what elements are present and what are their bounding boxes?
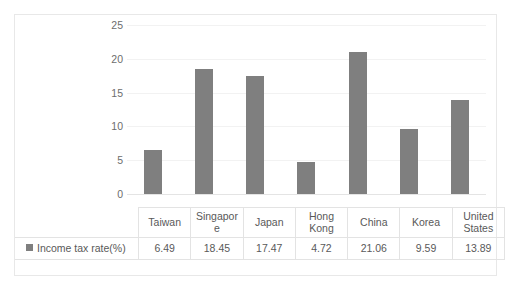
bar-slot	[435, 15, 486, 194]
category-label-line: Kong	[296, 223, 347, 235]
table-value-cell: 17.47	[243, 238, 295, 260]
category-label-line: Hong	[296, 211, 347, 223]
chart-data-table: TaiwanSingaporeJapanHongKongChinaKoreaUn…	[15, 207, 505, 260]
plot-area: 25 20 15 10 5 0	[15, 15, 498, 211]
bar-slot	[178, 15, 229, 194]
table-value-cell: 18.45	[191, 238, 243, 260]
table-row-values: Income tax rate(%) 6.4918.4517.474.7221.…	[15, 238, 504, 260]
legend-entry: Income tax rate(%)	[15, 238, 139, 260]
table-value-cell: 4.72	[295, 238, 347, 260]
table-value-cell: 21.06	[348, 238, 400, 260]
category-label-line: United	[453, 211, 504, 223]
category-label-line: e	[191, 223, 242, 235]
y-axis-tick-label: 20	[97, 54, 123, 64]
bar[interactable]	[195, 69, 213, 194]
y-axis-tick-label: 5	[97, 155, 123, 165]
table-header-cell-category: China	[348, 208, 400, 238]
y-axis-tick-label: 10	[97, 121, 123, 131]
table-value-cell: 13.89	[452, 238, 504, 260]
bar-slot	[332, 15, 383, 194]
category-label-line: Japan	[244, 217, 295, 229]
grid-and-bars	[127, 15, 486, 211]
table-header-cell-category: Korea	[400, 208, 452, 238]
table-corner-cell	[15, 208, 139, 238]
bar-series	[127, 15, 486, 194]
table-value-cell: 6.49	[139, 238, 191, 260]
legend-swatch-icon	[26, 244, 33, 251]
table-header-cell-category: UnitedStates	[452, 208, 504, 238]
category-label-line: States	[453, 223, 504, 235]
bar[interactable]	[246, 76, 264, 194]
legend-label: Income tax rate(%)	[37, 242, 126, 254]
bar[interactable]	[451, 100, 469, 194]
table-row-categories: TaiwanSingaporeJapanHongKongChinaKoreaUn…	[15, 208, 504, 238]
bar-slot	[281, 15, 332, 194]
axis-baseline	[127, 194, 486, 195]
bar[interactable]	[144, 150, 162, 194]
category-label-line: Taiwan	[139, 217, 190, 229]
table-header-cell-category: Singapore	[191, 208, 243, 238]
category-label-line: Singapor	[191, 211, 242, 223]
table-value-cell: 9.59	[400, 238, 452, 260]
y-axis-tick-label: 15	[97, 88, 123, 98]
category-label-line: Korea	[400, 217, 451, 229]
y-axis-tick-label: 25	[97, 20, 123, 30]
y-axis-tick-labels: 25 20 15 10 5 0	[97, 15, 123, 211]
y-axis-tick-label: 0	[97, 189, 123, 199]
bar-slot	[383, 15, 434, 194]
bar[interactable]	[297, 162, 315, 194]
bar-slot	[230, 15, 281, 194]
table-header-cell-category: Taiwan	[139, 208, 191, 238]
category-label-line: China	[348, 217, 399, 229]
chart-container: 25 20 15 10 5 0 TaiwanSingaporeJapanHong…	[14, 14, 497, 276]
table-header-cell-category: Japan	[243, 208, 295, 238]
table-header-cell-category: HongKong	[295, 208, 347, 238]
bar-slot	[127, 15, 178, 194]
bar[interactable]	[400, 129, 418, 194]
bar[interactable]	[349, 52, 367, 194]
